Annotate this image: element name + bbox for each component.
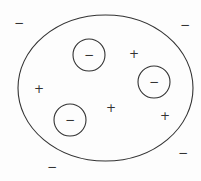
inside-positive-charge: +: [129, 48, 139, 60]
inner-circle-charge-label: −: [84, 49, 94, 61]
outside-negative-charge: −: [178, 147, 188, 159]
inner-circle-charge-label: −: [149, 76, 159, 88]
inner-circle-charge-label: −: [65, 114, 75, 126]
outside-negative-charge: −: [47, 161, 57, 173]
inside-positive-charge: +: [34, 83, 44, 95]
inside-positive-charge: +: [106, 102, 116, 114]
inside-positive-charge: +: [160, 110, 170, 122]
outer-boundary-ellipse: [18, 15, 193, 161]
outside-negative-charge: −: [14, 17, 24, 29]
diagram-shapes: [0, 0, 201, 181]
diagram-canvas: − − − + + + + − − − −: [0, 0, 201, 181]
outside-negative-charge: −: [180, 19, 190, 31]
